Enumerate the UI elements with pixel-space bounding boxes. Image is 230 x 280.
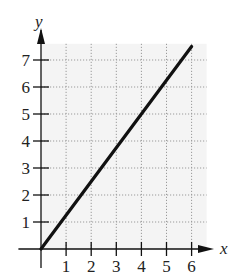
x-tick-label: 4 bbox=[137, 257, 146, 276]
x-tick-label: 2 bbox=[87, 257, 96, 276]
y-tick-label: 1 bbox=[22, 213, 31, 232]
y-tick-label: 7 bbox=[22, 51, 31, 70]
y-tick-label: 3 bbox=[22, 159, 31, 178]
x-tick-label: 1 bbox=[62, 257, 71, 276]
y-axis-label: y bbox=[33, 12, 43, 31]
x-tick-label: 3 bbox=[112, 257, 121, 276]
x-axis-label: x bbox=[219, 239, 228, 258]
y-tick-label: 2 bbox=[22, 186, 31, 205]
y-tick-label: 6 bbox=[22, 78, 31, 97]
x-tick-label: 5 bbox=[162, 257, 171, 276]
x-tick-label: 6 bbox=[187, 257, 196, 276]
y-tick-label: 4 bbox=[22, 132, 31, 151]
y-tick-label: 5 bbox=[22, 105, 31, 124]
line-chart: 1234561234567 x y bbox=[0, 0, 230, 280]
